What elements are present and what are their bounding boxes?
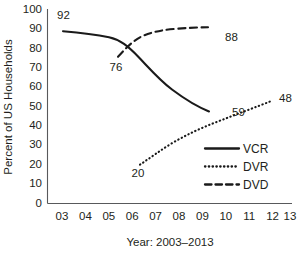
- label-dvr-start: 20: [132, 167, 145, 179]
- label-dvr-end: 48: [279, 92, 292, 104]
- chart-canvas: Percent of US Households 100 90 80 70 60…: [0, 0, 305, 254]
- y-tick-50: 50: [29, 100, 42, 112]
- label-vcr-start: 92: [57, 9, 70, 21]
- y-axis-tick-labels: 100 90 80 70 60 50 40 30 20 10 0: [23, 3, 42, 209]
- label-dvd-end: 88: [225, 31, 238, 43]
- y-tick-90: 90: [29, 22, 42, 34]
- legend-label-dvr: DVR: [243, 160, 269, 174]
- x-axis-title: Year: 2003–2013: [126, 236, 213, 248]
- y-tick-0: 0: [36, 197, 42, 209]
- x-tick-09: 09: [196, 210, 209, 222]
- y-tick-60: 60: [29, 80, 42, 92]
- x-tick-08: 08: [173, 210, 186, 222]
- label-vcr-end: 59: [232, 106, 245, 118]
- x-tick-03: 03: [56, 210, 69, 222]
- legend-item-dvr[interactable]: DVR: [205, 160, 269, 174]
- line-chart-figure: Percent of US Households 100 90 80 70 60…: [0, 0, 305, 254]
- y-tick-100: 100: [23, 3, 42, 15]
- y-tick-20: 20: [29, 158, 42, 170]
- legend-item-dvd[interactable]: DVD: [205, 178, 269, 192]
- x-tick-10: 10: [219, 210, 232, 222]
- y-tick-80: 80: [29, 42, 42, 54]
- x-tick-06: 06: [126, 210, 139, 222]
- legend-label-vcr: VCR: [243, 142, 269, 156]
- y-tick-10: 10: [29, 177, 42, 189]
- series-line-vcr: [63, 31, 209, 111]
- x-tick-12: 12: [266, 210, 279, 222]
- label-dvd-start: 76: [110, 61, 123, 73]
- legend-label-dvd: DVD: [243, 178, 269, 192]
- y-tick-70: 70: [29, 61, 42, 73]
- chart-legend: VCR DVR DVD: [205, 142, 269, 192]
- y-tick-40: 40: [29, 119, 42, 131]
- x-tick-05: 05: [102, 210, 115, 222]
- legend-item-vcr[interactable]: VCR: [205, 142, 269, 156]
- x-tick-07: 07: [149, 210, 162, 222]
- series-line-dvd: [118, 27, 208, 57]
- x-axis-tick-labels: 03 04 05 06 07 08 09 10 11 12 13: [56, 210, 297, 222]
- x-tick-11: 11: [243, 210, 255, 222]
- y-tick-30: 30: [29, 138, 42, 150]
- x-tick-13: 13: [284, 210, 297, 222]
- y-axis-title: Percent of US Households: [2, 39, 14, 175]
- x-tick-04: 04: [79, 210, 92, 222]
